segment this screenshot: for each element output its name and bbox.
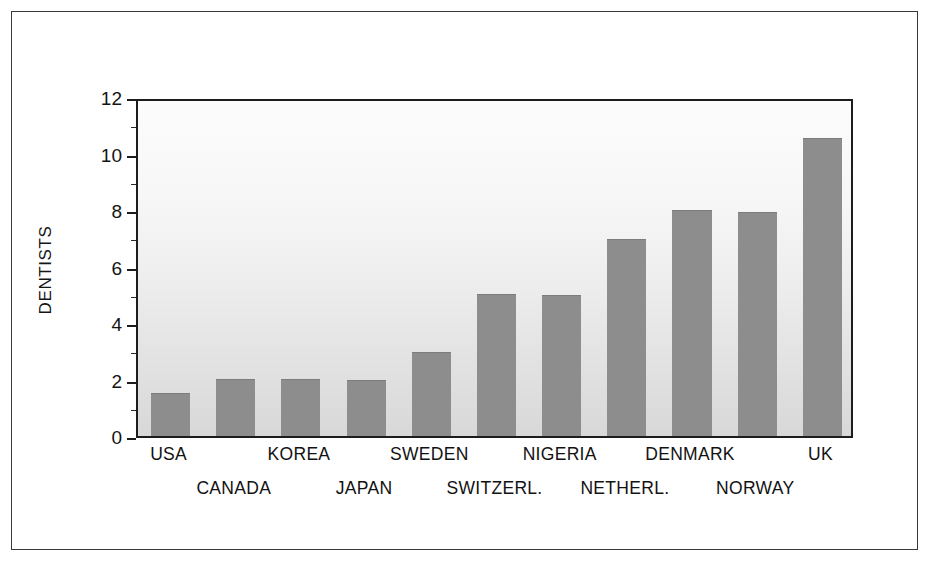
y-axis-tick-label: 12 xyxy=(32,88,122,110)
x-axis-tick-label: NORWAY xyxy=(716,478,794,499)
y-axis-tick-major xyxy=(127,99,136,101)
y-axis-tick-label: 2 xyxy=(32,371,122,393)
chart-figure: DENTISTS 024681012 USACANADAKOREAJAPANSW… xyxy=(0,0,931,563)
y-axis-tick-major xyxy=(127,212,136,214)
y-axis-tick-label: 4 xyxy=(32,314,122,336)
y-axis-tick-major xyxy=(127,156,136,158)
y-axis-tick-label: 8 xyxy=(32,201,122,223)
x-axis-tick-label: NIGERIA xyxy=(523,444,597,465)
bar xyxy=(738,212,777,436)
x-axis-tick-label: SWEDEN xyxy=(390,444,469,465)
x-axis-tick-label: SWITZERL. xyxy=(446,478,542,499)
x-axis-tick-label: DENMARK xyxy=(645,444,735,465)
y-axis-tick-label: 0 xyxy=(32,427,122,449)
x-axis-tick-label: JAPAN xyxy=(336,478,393,499)
bar xyxy=(151,393,190,436)
y-axis-tick-label: 10 xyxy=(32,145,122,167)
plot-area xyxy=(136,99,853,438)
y-axis-tick-major xyxy=(127,382,136,384)
y-axis-tick-major xyxy=(127,438,136,440)
bar xyxy=(607,239,646,436)
y-axis-tick-major xyxy=(127,269,136,271)
bar xyxy=(412,352,451,436)
bar xyxy=(672,210,711,436)
x-axis-tick-label: CANADA xyxy=(196,478,271,499)
bar xyxy=(216,379,255,437)
x-axis-tick-label: NETHERL. xyxy=(580,478,669,499)
x-axis-tick-label: UK xyxy=(808,444,833,465)
bar xyxy=(347,380,386,436)
bar xyxy=(542,295,581,436)
x-axis-tick-label: USA xyxy=(150,444,187,465)
y-axis-tick-major xyxy=(127,325,136,327)
bar xyxy=(803,138,842,436)
y-axis-tick-label: 6 xyxy=(32,258,122,280)
bar xyxy=(281,379,320,437)
bar xyxy=(477,294,516,436)
x-axis-tick-label: KOREA xyxy=(268,444,331,465)
